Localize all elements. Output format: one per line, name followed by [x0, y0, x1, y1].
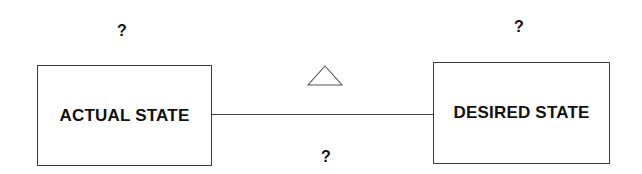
- connector-line: [212, 114, 433, 115]
- desired-state-label: DESIRED STATE: [453, 103, 589, 123]
- actual-state-question-mark: ?: [115, 23, 129, 39]
- desired-state-box: DESIRED STATE: [433, 62, 610, 164]
- actual-state-label: ACTUAL STATE: [60, 106, 190, 126]
- desired-state-question-mark: ?: [512, 19, 526, 35]
- gap-diagram: ? ? ACTUAL STATE DESIRED STATE ?: [0, 0, 642, 174]
- gap-question-mark: ?: [319, 149, 333, 165]
- delta-triangle-icon: [305, 64, 345, 88]
- actual-state-box: ACTUAL STATE: [37, 65, 212, 166]
